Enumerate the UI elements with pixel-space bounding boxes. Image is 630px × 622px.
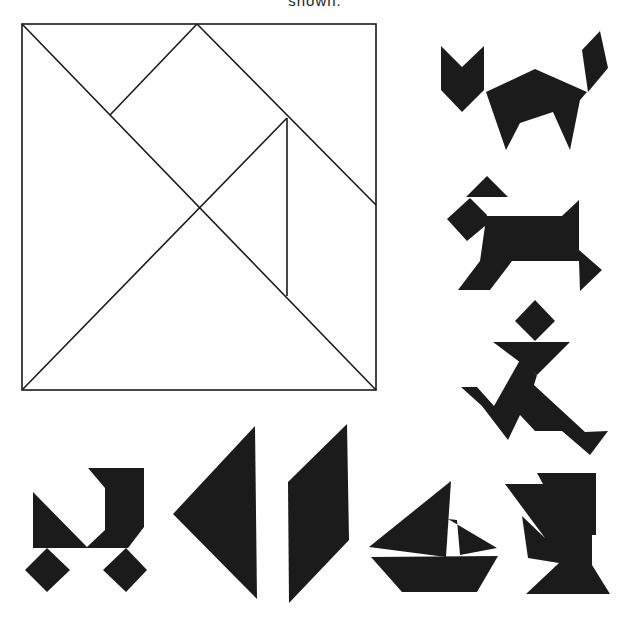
running-man-silhouette: [461, 300, 608, 455]
stroller-wheel-right: [103, 548, 147, 592]
large-triangle: [173, 426, 257, 599]
figure-shape: [505, 473, 610, 594]
figure-silhouette: [505, 473, 610, 594]
dog-silhouette: [447, 176, 602, 291]
dog-ear: [466, 176, 508, 197]
stroller-wheel-left: [25, 548, 70, 592]
cat-head: [441, 46, 484, 112]
sailboat-silhouette: [369, 481, 498, 592]
square-left-edge: [110, 24, 197, 115]
parallelogram-silhouette: [288, 424, 349, 603]
runner-body: [461, 360, 608, 455]
large-parallelogram: [288, 424, 349, 603]
cat-body: [486, 69, 587, 150]
dog-head: [447, 198, 487, 241]
anti-diagonal: [23, 118, 287, 389]
stroller-body: [33, 468, 144, 548]
stroller-silhouette: [25, 468, 147, 592]
sailboat-jib: [448, 519, 497, 555]
sailboat-hull: [371, 556, 498, 592]
sailboat-main-sail: [369, 481, 451, 557]
cat-tail: [582, 31, 608, 92]
runner-head: [515, 300, 555, 341]
runner-torso: [493, 342, 570, 375]
tangram-square: [22, 24, 376, 390]
triangle-silhouette: [173, 426, 257, 599]
cat-silhouette: [441, 31, 608, 150]
